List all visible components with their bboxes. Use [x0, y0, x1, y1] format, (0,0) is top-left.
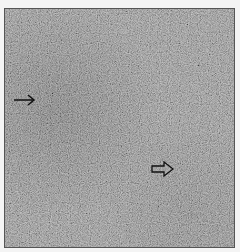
tissue-texture — [5, 9, 235, 248]
open-arrow-icon — [151, 161, 175, 177]
micrograph-panel — [4, 8, 235, 248]
solid-arrow-icon — [13, 93, 37, 107]
